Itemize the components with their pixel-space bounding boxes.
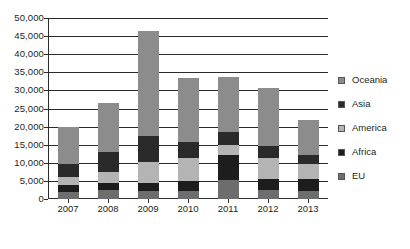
bar-segment bbox=[98, 152, 119, 173]
bar-column bbox=[258, 18, 279, 199]
bar-column bbox=[178, 18, 199, 199]
bar-segment bbox=[258, 190, 279, 199]
bar-segment bbox=[58, 192, 79, 199]
bar-segment bbox=[258, 179, 279, 190]
bar-series-group bbox=[48, 18, 328, 199]
bar-column bbox=[298, 18, 319, 199]
legend-label: Oceania bbox=[352, 75, 387, 85]
bar-segment bbox=[58, 185, 79, 192]
x-axis-tick-label: 2009 bbox=[137, 203, 158, 214]
y-axis-tick-label: 0 bbox=[0, 194, 44, 204]
y-axis-tick-label: 30,000 bbox=[0, 86, 44, 96]
bar-column bbox=[58, 18, 79, 199]
bar-segment bbox=[138, 162, 159, 183]
y-axis-tick-label: 25,000 bbox=[0, 104, 44, 114]
bar-segment bbox=[138, 183, 159, 191]
bar-segment bbox=[138, 136, 159, 162]
bar-segment bbox=[178, 181, 199, 191]
bar-column bbox=[218, 18, 239, 199]
legend-item: Africa bbox=[338, 140, 410, 164]
bar-segment bbox=[178, 78, 199, 142]
y-axis-tick-label: 40,000 bbox=[0, 49, 44, 59]
bar-segment bbox=[98, 183, 119, 190]
x-axis-tick-label: 2012 bbox=[257, 203, 278, 214]
bar-segment bbox=[58, 177, 79, 185]
bar-segment bbox=[298, 191, 319, 199]
legend-label: Africa bbox=[352, 147, 376, 157]
legend-item: EU bbox=[338, 164, 410, 188]
legend-swatch-icon bbox=[338, 101, 345, 108]
x-axis-tick-label: 2010 bbox=[177, 203, 198, 214]
y-axis-tick-label: 50,000 bbox=[0, 13, 44, 23]
bar-segment bbox=[58, 127, 79, 164]
legend-item: Oceania bbox=[338, 68, 410, 92]
legend-swatch-icon bbox=[338, 77, 345, 84]
bar-segment bbox=[298, 179, 319, 191]
legend-item: Asia bbox=[338, 92, 410, 116]
x-axis: 2007200820092010201120122013 bbox=[48, 203, 328, 223]
stacked-bar-chart: 05,00010,00015,00020,00025,00030,00035,0… bbox=[0, 0, 410, 249]
legend-label: Asia bbox=[352, 99, 370, 109]
bar-column bbox=[138, 18, 159, 199]
bar-segment bbox=[178, 142, 199, 158]
bar-segment bbox=[138, 191, 159, 199]
bar-segment bbox=[218, 77, 239, 131]
bar-segment bbox=[138, 31, 159, 136]
legend-swatch-icon bbox=[338, 125, 345, 132]
bar-segment bbox=[298, 155, 319, 164]
y-axis: 05,00010,00015,00020,00025,00030,00035,0… bbox=[0, 0, 44, 249]
bar-segment bbox=[218, 132, 239, 145]
y-axis-tick-label: 20,000 bbox=[0, 122, 44, 132]
legend-label: America bbox=[352, 123, 387, 133]
legend-item: America bbox=[338, 116, 410, 140]
x-axis-tick-label: 2011 bbox=[218, 203, 238, 214]
bar-segment bbox=[178, 191, 199, 199]
bar-column bbox=[98, 18, 119, 199]
y-axis-tick-label: 45,000 bbox=[0, 31, 44, 41]
bar-segment bbox=[218, 145, 239, 155]
y-axis-tick-label: 15,000 bbox=[0, 140, 44, 150]
plot-area bbox=[48, 18, 328, 199]
bar-segment bbox=[98, 172, 119, 183]
legend-swatch-icon bbox=[338, 173, 345, 180]
bar-segment bbox=[98, 190, 119, 199]
bar-segment bbox=[218, 155, 239, 180]
y-axis-tick-label: 10,000 bbox=[0, 158, 44, 168]
y-axis-tick-label: 5,000 bbox=[0, 176, 44, 186]
bar-segment bbox=[258, 88, 279, 146]
bar-segment bbox=[178, 158, 199, 181]
bar-segment bbox=[58, 164, 79, 177]
legend-label: EU bbox=[352, 171, 365, 181]
bar-segment bbox=[298, 120, 319, 155]
bar-segment bbox=[258, 146, 279, 158]
x-axis-tick-label: 2013 bbox=[297, 203, 318, 214]
y-axis-tick-mark bbox=[44, 199, 48, 200]
legend-swatch-icon bbox=[338, 149, 345, 156]
bar-segment bbox=[258, 158, 279, 179]
chart-legend: OceaniaAsiaAmericaAfricaEU bbox=[338, 68, 410, 188]
bar-segment bbox=[218, 180, 239, 199]
x-axis-tick-label: 2007 bbox=[57, 203, 78, 214]
bar-segment bbox=[298, 164, 319, 180]
x-axis-tick-label: 2008 bbox=[97, 203, 118, 214]
y-axis-tick-label: 35,000 bbox=[0, 68, 44, 78]
bar-segment bbox=[98, 103, 119, 152]
